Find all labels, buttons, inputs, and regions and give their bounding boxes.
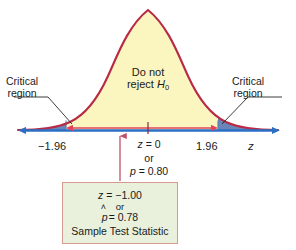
figure-canvas: Critical region Critical region Do not r… [0,0,296,250]
center-z-value: = 0 [143,138,161,150]
leader-line-left [14,97,72,124]
sample-test-statistic-callout: z = −1.00 or ˄p = 0.78 Sample Test Stati… [62,182,178,244]
center-or-word: or [113,152,185,166]
critical-region-right-line1: Critical [232,76,264,88]
critical-region-label-left: Critical region [6,76,38,100]
critical-region-left-line2: region [6,88,38,100]
center-p-value: = 0.80 [136,165,168,177]
tick-label-negative-critical-value: −1.96 [38,140,66,152]
do-not-reject-label: Do not reject H0 [96,66,200,92]
callout-phat-value: = 0.78 [109,211,139,223]
center-value-stack: z = 0 or p = 0.80 [113,138,185,179]
callout-caption: Sample Test Statistic [71,225,168,237]
critical-region-right-line2: region [232,88,264,100]
null-hypothesis-subscript: 0 [165,83,169,92]
null-hypothesis-symbol: H [157,78,165,90]
p-hat-caret: ˄ [101,203,106,212]
reject-word: reject [127,78,157,90]
center-p-line: p = 0.80 [113,165,185,179]
callout-z-line: z = −1.00 [98,189,142,201]
leader-line-right [222,97,282,124]
do-not-reject-line1: Do not [96,66,200,78]
center-z-line: z = 0 [113,138,185,152]
z-axis-label: z [248,140,254,153]
callout-phat-line: ˄p = 0.78 [102,211,138,223]
tick-label-positive-critical-value: 1.96 [196,140,218,152]
critical-region-label-right: Critical region [232,76,264,100]
p-hat-letter: p [102,211,108,223]
do-not-reject-line2: reject H0 [96,78,200,92]
p-hat-symbol: ˄p [102,211,109,223]
critical-region-left-line1: Critical [6,76,38,88]
callout-z-value: = −1.00 [103,189,142,201]
